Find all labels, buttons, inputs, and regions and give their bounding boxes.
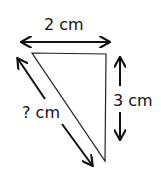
width-label: 2 cm [44,15,84,34]
height-label: 3 cm [113,91,153,110]
hypotenuse-label: ? cm [22,103,60,122]
triangle-diagram: 2 cm 3 cm ? cm [0,0,161,176]
